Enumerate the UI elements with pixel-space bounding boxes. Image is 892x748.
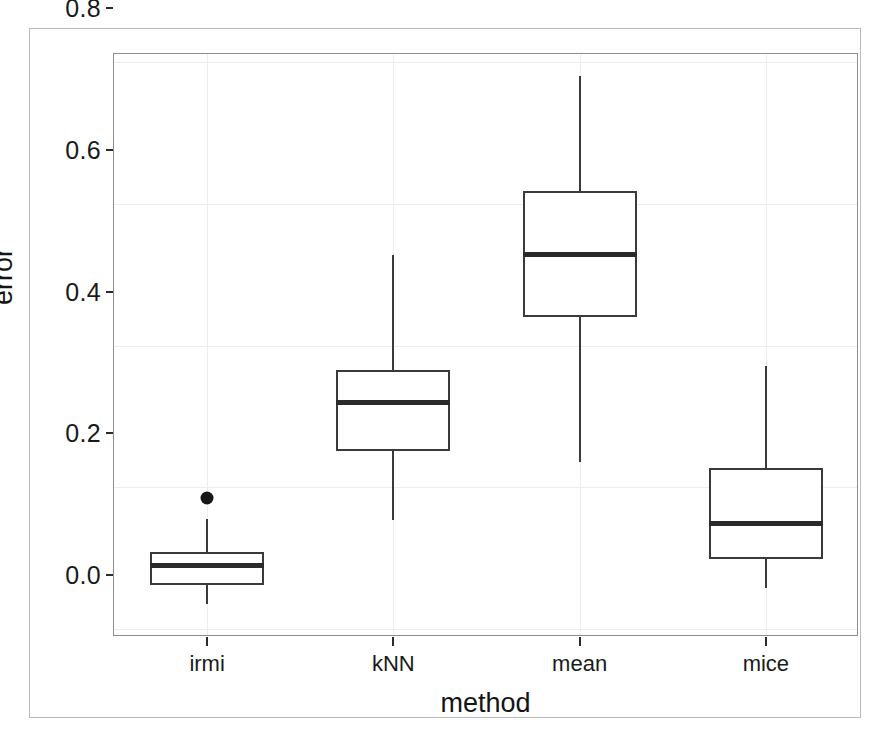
x-tick-label-knn: kNN <box>372 651 415 677</box>
y-tick-mark <box>106 574 113 576</box>
y-tick-mark <box>106 432 113 434</box>
x-tick-mark <box>206 637 208 646</box>
x-tick-mark <box>392 637 394 646</box>
y-tick-label: 0.6 <box>65 135 101 164</box>
median-line <box>709 521 823 526</box>
y-tick-label: 0.0 <box>65 560 101 589</box>
y-tick-mark <box>106 7 113 9</box>
y-tick-label: 0.2 <box>65 419 101 448</box>
x-tick-label-irmi: irmi <box>189 651 224 677</box>
y-tick-mark <box>106 149 113 151</box>
x-tick-label-mice: mice <box>743 651 789 677</box>
y-tick-label: 0.8 <box>65 0 101 23</box>
x-tick-mark <box>579 637 581 646</box>
plot-panel: irmikNNmeanmice <box>113 53 858 636</box>
whisker-upper <box>765 366 767 468</box>
box-iqr <box>709 468 823 559</box>
y-tick-label: 0.4 <box>65 277 101 306</box>
y-tick-mark <box>106 291 113 293</box>
boxplot-mice <box>114 54 859 635</box>
y-axis-title: error <box>0 248 19 305</box>
x-tick-label-mean: mean <box>552 651 607 677</box>
whisker-lower <box>765 559 767 588</box>
x-axis-title: method <box>113 688 858 719</box>
x-tick-mark <box>765 637 767 646</box>
figure-root: irmikNNmeanmice 0.00.20.40.60.8 error me… <box>0 0 892 748</box>
